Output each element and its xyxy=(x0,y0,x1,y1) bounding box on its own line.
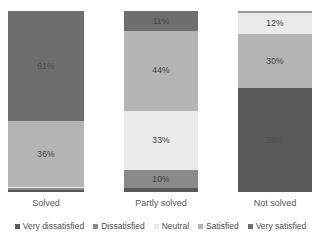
bar-segment[interactable]: 58% xyxy=(238,88,312,192)
legend-swatch-icon xyxy=(198,224,203,229)
legend-item[interactable]: Very dissatisfied xyxy=(15,222,84,231)
bar-segment[interactable]: 11% xyxy=(124,11,198,31)
bar-stack: 61%36% xyxy=(8,11,84,192)
legend-label: Dissatisfied xyxy=(101,222,144,231)
bar-segment-value-label: 33% xyxy=(152,136,169,145)
legend-swatch-icon xyxy=(248,224,253,229)
bar-column-partly-solved[interactable]: 11%44%33%10% xyxy=(124,11,198,192)
bar-segment[interactable]: 61% xyxy=(8,11,84,121)
bar-column-not-solved[interactable]: 12%30%58% xyxy=(238,11,312,192)
bar-segment[interactable]: 12% xyxy=(238,13,312,35)
legend-label: Very dissatisfied xyxy=(23,222,84,231)
bar-segment-value-label: 44% xyxy=(152,66,169,75)
bar-segment-value-label: 10% xyxy=(152,175,169,184)
bar-column-solved[interactable]: 61%36% xyxy=(8,11,84,192)
bar-segment[interactable]: 30% xyxy=(238,34,312,88)
plot-area: 61%36% 11%44%33%10% 12%30%58% xyxy=(0,11,321,192)
bar-segment-value-label: 58% xyxy=(266,136,283,145)
category-axis-labels: Solved Partly solved Not solved xyxy=(0,198,321,212)
legend-item[interactable]: Satisfied xyxy=(198,222,239,231)
legend-label: Satisfied xyxy=(206,222,239,231)
legend-label: Very satisfied xyxy=(256,222,307,231)
legend-item[interactable]: Dissatisfied xyxy=(93,222,144,231)
bar-segment-value-label: 11% xyxy=(153,17,170,26)
bar-segment[interactable]: 10% xyxy=(124,170,198,188)
bar-segment[interactable]: 44% xyxy=(124,31,198,111)
chart-legend: Very dissatisfiedDissatisfiedNeutralSati… xyxy=(0,219,321,233)
bar-stack: 11%44%33%10% xyxy=(124,11,198,192)
category-label-solved: Solved xyxy=(8,198,84,208)
legend-swatch-icon xyxy=(93,224,98,229)
bar-segment-value-label: 30% xyxy=(266,57,283,66)
bar-segment[interactable] xyxy=(8,190,84,192)
bar-segment[interactable] xyxy=(124,188,198,192)
legend-swatch-icon xyxy=(15,224,20,229)
bar-segment-value-label: 61% xyxy=(37,62,54,71)
stacked-bar-chart: 61%36% 11%44%33%10% 12%30%58% Solved Par… xyxy=(0,0,321,237)
bar-stack: 12%30%58% xyxy=(238,11,312,192)
category-label-partly-solved: Partly solved xyxy=(124,198,198,208)
legend-item[interactable]: Very satisfied xyxy=(248,222,307,231)
legend-label: Neutral xyxy=(162,222,189,231)
category-label-not-solved: Not solved xyxy=(238,198,312,208)
bar-segment[interactable]: 33% xyxy=(124,111,198,171)
bar-segment[interactable]: 36% xyxy=(8,121,84,186)
legend-swatch-icon xyxy=(154,224,159,229)
bar-segment-value-label: 12% xyxy=(266,19,283,28)
legend-item[interactable]: Neutral xyxy=(154,222,189,231)
bar-segment-value-label: 36% xyxy=(37,150,54,159)
